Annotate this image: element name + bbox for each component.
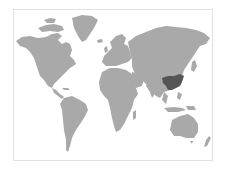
south-america[interactable] [60,96,88,152]
arctic-islands-2 [44,18,56,23]
arctic-islands [38,24,64,32]
uk [104,46,108,53]
new-guinea [186,106,196,110]
central-america [52,88,64,99]
world-map [0,0,227,172]
southeast-asia [162,92,168,104]
tasmania [190,141,193,144]
greenland[interactable] [72,15,98,42]
japan [191,60,197,72]
iceland [97,39,103,43]
caribbean [62,88,70,90]
north-america[interactable] [16,33,76,88]
land-masses [16,15,211,152]
madagascar [133,110,136,120]
new-zealand [204,136,211,147]
indonesia [164,107,186,112]
philippines [177,92,182,100]
africa[interactable] [99,68,138,132]
australia[interactable] [170,114,198,138]
